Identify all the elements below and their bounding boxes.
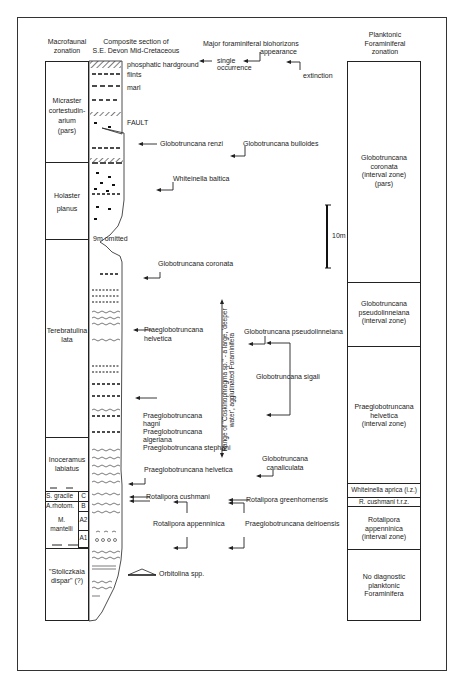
biohorizon-praeglobotruncana-stephani: Praeglobotruncana stephani — [143, 444, 231, 453]
biohorizon-praeglobotruncana-helvetica: Praeglobotruncana helvetica — [144, 325, 203, 343]
biohorizon-globotruncana-renzi: Globotruncana renzi — [160, 140, 223, 149]
planktonic-zone-whiteinella-aprica: Whiteinella aprica (i.z.) — [347, 486, 421, 495]
zone-divider — [347, 282, 421, 283]
label-line: Praeglobotruncana — [144, 325, 203, 334]
planktonic-zone-coronata: Globotruncana coronata (interval zone) (… — [347, 154, 421, 188]
scale-bar-label: 10m — [332, 232, 346, 241]
zone-line: Rotalipora — [347, 516, 421, 525]
zone-line: coronata — [347, 163, 421, 172]
zone-line: planktonic — [347, 582, 421, 591]
label-line: canaliculata — [255, 464, 315, 473]
zone-line: (pars) — [347, 180, 421, 189]
label-marl: marl — [127, 84, 141, 93]
label-phosphatic-hardground: phosphatic hardground — [127, 61, 199, 70]
biohorizon-globotruncana-canaliculata: Globotruncana canaliculata — [255, 455, 315, 472]
biohorizon-globotruncana-sigali: Globotruncana sigali — [256, 373, 320, 382]
zone-divider — [347, 346, 421, 347]
label-line: hagni — [143, 420, 202, 428]
biohorizon-whiteinella-baltica: Whiteinella baltica — [173, 175, 229, 184]
label-fault: FAULT — [127, 119, 148, 128]
label-line: algeriana — [143, 436, 202, 444]
label-line: Globotruncana — [255, 455, 315, 464]
zone-line: (interval zone) — [347, 420, 421, 429]
biohorizon-globotruncana-bulloides: Globotruncana bulloides — [243, 140, 319, 149]
label-line: Praeglobotruncana — [143, 428, 202, 436]
biohorizon-globotruncana-pseudolinneiana: Globotruncana pseudolinneiana — [244, 328, 343, 337]
zone-line: (interval zone) — [347, 533, 421, 542]
biohorizon-praeglobotruncana-helvetica-lower: Praeglobotruncana helvetica — [144, 466, 233, 475]
planktonic-zone-helvetica: Praeglobotruncana helvetica (interval zo… — [347, 403, 421, 429]
planktonic-zone-pseudolinneiana: Globotruncana pseudolinneiana (interval … — [347, 300, 421, 326]
zone-line: Foraminifera — [347, 590, 421, 599]
biohorizon-praeglobotruncana-algeriana: Praeglobotruncana algeriana — [143, 428, 202, 444]
biohorizon-globotruncana-coronata: Globotruncana coronata — [158, 260, 233, 269]
zone-line: Globotruncana — [347, 154, 421, 163]
biohorizon-orbitolina: Orbitolina spp. — [159, 570, 204, 579]
biohorizon-rotalipora-appenninica: Rotalipora appenninica — [153, 520, 225, 529]
zone-line: helvetica — [347, 412, 421, 421]
zone-line: appenninica — [347, 525, 421, 534]
coskinophragma-range-note: Range of "Coskinophragma sp." - a large,… — [221, 305, 235, 455]
biohorizon-praeglobotruncana-hagni: Praeglobotruncana hagni — [143, 412, 202, 428]
zone-line: Praeglobotruncana — [347, 403, 421, 412]
zone-line: (interval zone) — [347, 317, 421, 326]
biohorizon-rotalipora-greenhornensis: Rotalipora greenhornensis — [246, 496, 328, 505]
biohorizon-rotalipora-cushmani: Rotalipora cushmani — [146, 493, 210, 502]
zone-divider — [347, 483, 421, 484]
zone-line: (interval zone) — [347, 171, 421, 180]
planktonic-zone-r-cushmani: R. cushmani t.r.z. — [347, 498, 421, 507]
label-line: helvetica — [144, 334, 203, 343]
biohorizon-praeglobotruncana-delrioensis: Praeglobotruncana delrioensis — [245, 520, 340, 529]
planktonic-zone-no-diagnostic: No diagnostic planktonic Foraminifera — [347, 573, 421, 599]
label-flints: flints — [127, 71, 141, 80]
zone-divider — [347, 549, 421, 550]
zone-line: pseudolinneiana — [347, 309, 421, 318]
planktonic-zone-appenninica: Rotalipora appenninica (interval zone) — [347, 516, 421, 542]
label-line: Praeglobotruncana — [143, 412, 202, 420]
zone-line: Globotruncana — [347, 300, 421, 309]
zone-line: No diagnostic — [347, 573, 421, 582]
label-9m-omitted: 9m omitted — [93, 235, 128, 244]
